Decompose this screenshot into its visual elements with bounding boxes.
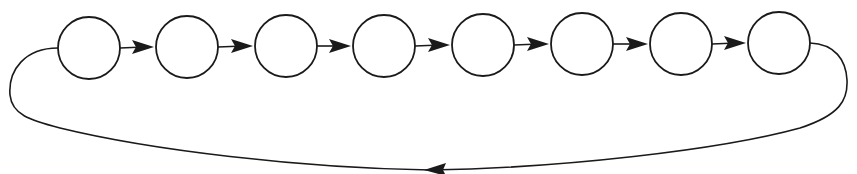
return-loop-path bbox=[10, 43, 847, 170]
node-n2 bbox=[156, 16, 218, 78]
node-n4 bbox=[353, 15, 415, 77]
node-n3 bbox=[255, 15, 317, 77]
cycle-diagram bbox=[0, 0, 857, 174]
return-edge bbox=[10, 43, 847, 174]
return-arrowhead-icon bbox=[424, 163, 446, 174]
node-n8 bbox=[748, 12, 810, 74]
node-n6 bbox=[551, 13, 613, 75]
node-n1 bbox=[58, 17, 120, 79]
node-n7 bbox=[650, 13, 712, 75]
node-n5 bbox=[452, 14, 514, 76]
